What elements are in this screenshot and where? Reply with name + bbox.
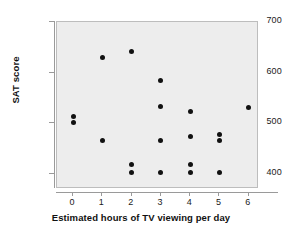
x-tick-mark <box>218 192 219 196</box>
x-axis-title: Estimated hours of TV viewing per day <box>0 212 282 223</box>
data-point <box>188 170 193 175</box>
y-tick-label: 600 <box>236 66 282 76</box>
data-point <box>158 170 163 175</box>
x-tick-label: 6 <box>238 197 258 207</box>
x-tick-label: 1 <box>91 197 111 207</box>
y-tick-mark <box>49 173 54 174</box>
data-point <box>188 162 193 167</box>
x-tick-mark <box>72 192 73 196</box>
x-tick-mark <box>160 192 161 196</box>
data-point <box>188 134 193 139</box>
y-tick-mark <box>49 72 54 73</box>
data-point <box>246 105 251 110</box>
x-tick-label: 5 <box>208 197 228 207</box>
x-axis-line <box>56 192 278 193</box>
data-point <box>158 78 163 83</box>
y-tick-label: 400 <box>236 167 282 177</box>
data-point <box>71 114 76 119</box>
scatter-plot-figure: 400500600700 SAT score 0123456 Estimated… <box>0 0 282 238</box>
x-tick-label: 4 <box>179 197 199 207</box>
x-tick-mark <box>189 192 190 196</box>
x-tick-mark <box>131 192 132 196</box>
y-tick-label: 500 <box>236 116 282 126</box>
y-axis-title-wrapper: SAT score <box>10 40 24 120</box>
y-tick-label: 700 <box>236 15 282 25</box>
data-point <box>129 162 134 167</box>
x-tick-mark <box>248 192 249 196</box>
data-point <box>158 104 163 109</box>
data-point <box>217 138 222 143</box>
data-point <box>158 138 163 143</box>
data-point <box>100 138 105 143</box>
plot-area <box>56 21 258 188</box>
x-tick-label: 3 <box>150 197 170 207</box>
data-point <box>217 132 222 137</box>
data-points-layer <box>57 22 257 187</box>
data-point <box>100 55 105 60</box>
y-tick-mark <box>49 122 54 123</box>
y-axis-line <box>54 21 55 188</box>
data-point <box>71 120 76 125</box>
x-tick-mark <box>101 192 102 196</box>
data-point <box>217 170 222 175</box>
data-point <box>188 109 193 114</box>
x-tick-label: 2 <box>121 197 141 207</box>
data-point <box>129 170 134 175</box>
y-axis-title: SAT score <box>10 40 21 120</box>
data-point <box>129 49 134 54</box>
y-tick-mark <box>49 21 54 22</box>
x-tick-label: 0 <box>62 197 82 207</box>
